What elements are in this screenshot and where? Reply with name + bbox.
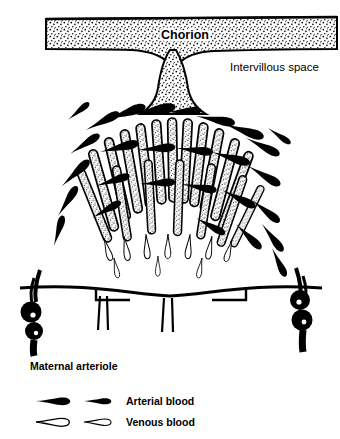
label-intervillous-space: Intervillous space <box>230 61 319 73</box>
label-maternal-arteriole: Maternal arteriole <box>30 360 118 372</box>
label-chorion: Chorion <box>161 28 209 42</box>
legend-label-venous: Venous blood <box>126 416 195 428</box>
figure-canvas: Chorion Intervillous space Maternal arte… <box>0 0 340 439</box>
legend-label-arterial: Arterial blood <box>126 395 194 407</box>
